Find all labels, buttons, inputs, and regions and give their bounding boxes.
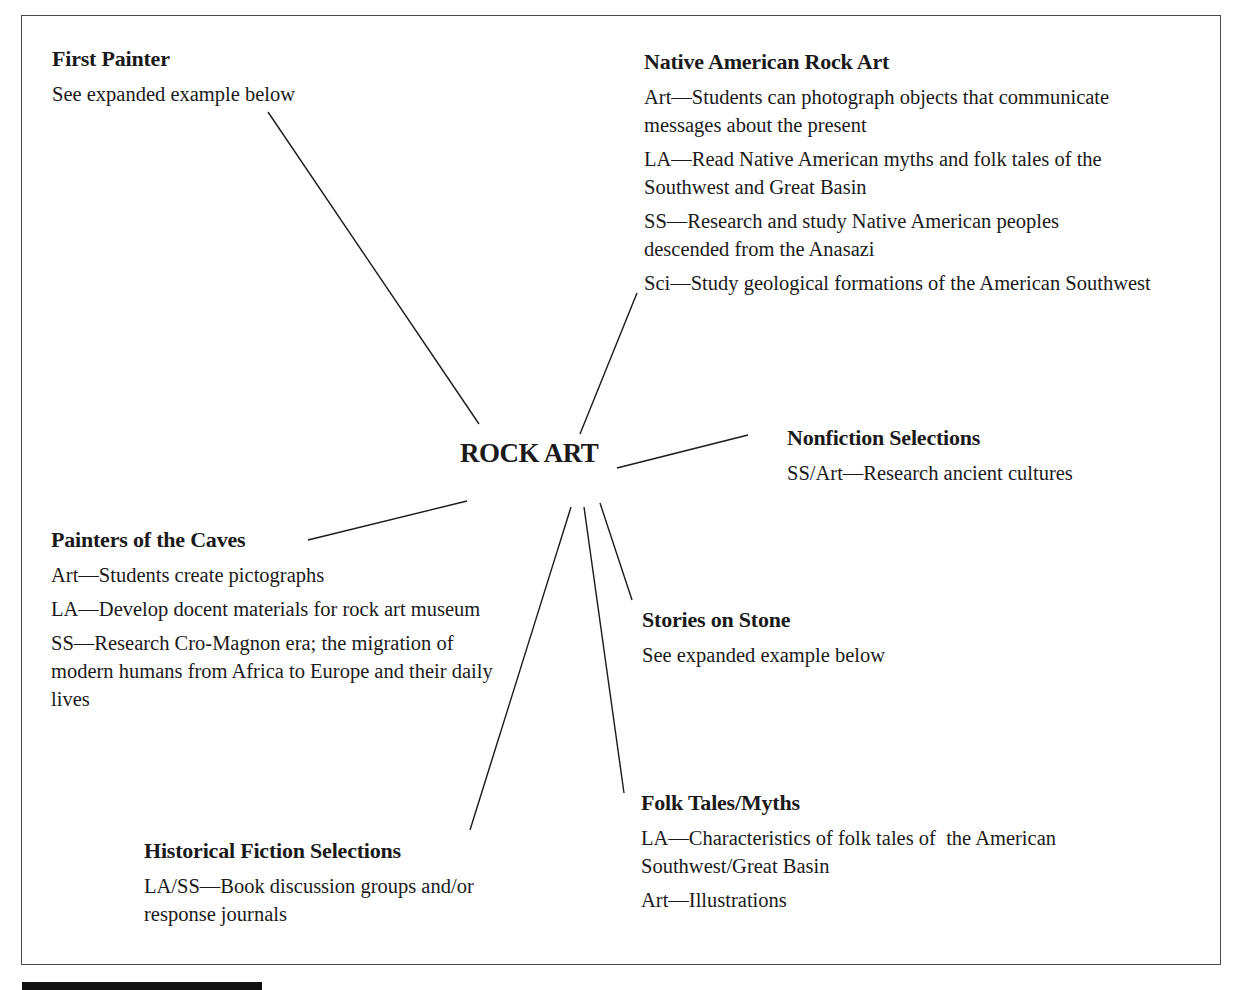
node-item: LA/SS—Book discussion groups and/or resp… — [144, 872, 514, 928]
node-item: LA—Develop docent materials for rock art… — [51, 595, 531, 623]
node-native-american-rock-art: Native American Rock Art Art—Students ca… — [644, 47, 1204, 297]
node-title: First Painter — [52, 44, 372, 74]
node-nonfiction-selections: Nonfiction Selections SS/Art—Research an… — [787, 423, 1147, 487]
node-item: Art—Students can photograph objects that… — [644, 83, 1189, 139]
node-item: Sci—Study geological formations of the A… — [644, 269, 1204, 297]
footer-bar — [22, 982, 262, 990]
node-item: LA—Read Native American myths and folk t… — [644, 145, 1174, 201]
node-item: Art—Illustrations — [641, 886, 1121, 914]
node-title: Folk Tales/Myths — [641, 788, 1121, 818]
node-title: Stories on Stone — [642, 605, 962, 635]
center-topic: ROCK ART — [460, 438, 598, 469]
node-item: See expanded example below — [52, 80, 372, 108]
node-title: Native American Rock Art — [644, 47, 1204, 77]
node-title: Nonfiction Selections — [787, 423, 1147, 453]
node-title: Painters of the Caves — [51, 525, 531, 555]
node-painters-of-the-caves: Painters of the Caves Art—Students creat… — [51, 525, 531, 713]
node-first-painter: First Painter See expanded example below — [52, 44, 372, 108]
node-item: See expanded example below — [642, 641, 962, 669]
node-item: LA—Characteristics of folk tales of the … — [641, 824, 1116, 880]
node-folk-tales-myths: Folk Tales/Myths LA—Characteristics of f… — [641, 788, 1121, 914]
node-historical-fiction-selections: Historical Fiction Selections LA/SS—Book… — [144, 836, 514, 928]
node-item: SS/Art—Research ancient cultures — [787, 459, 1147, 487]
node-item: SS—Research and study Native American pe… — [644, 207, 1124, 263]
node-item: Art—Students create pictographs — [51, 561, 531, 589]
node-title: Historical Fiction Selections — [144, 836, 514, 866]
node-item: SS—Research Cro-Magnon era; the migratio… — [51, 629, 511, 713]
node-stories-on-stone: Stories on Stone See expanded example be… — [642, 605, 962, 669]
